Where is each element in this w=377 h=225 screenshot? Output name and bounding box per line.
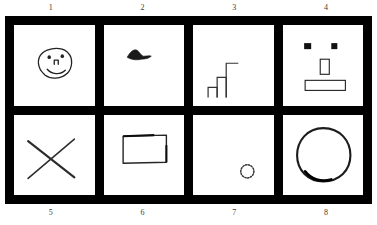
square-eye-left: [304, 43, 311, 49]
smiley-face-icon: [14, 25, 95, 106]
bar-1: [208, 87, 217, 97]
panel-number-2: 2: [97, 1, 189, 14]
rectangle-mouth: [305, 80, 345, 90]
bar-2: [217, 77, 226, 97]
bar-3: [226, 63, 238, 97]
panel-number-7: 7: [189, 206, 281, 219]
eye-left: [48, 55, 51, 59]
rectangle-icon: [104, 115, 185, 196]
bar-chart-icon: [193, 25, 274, 106]
dotted-circle-icon: [193, 115, 274, 196]
large-circle-icon: [283, 115, 364, 196]
panel-number-3: 3: [189, 1, 281, 14]
top-number-row: 1 2 3 4: [5, 1, 372, 14]
panel-number-8: 8: [280, 206, 372, 219]
panel-1-smiley-face[interactable]: [14, 25, 95, 106]
panel-2-small-bird[interactable]: [104, 25, 185, 106]
eye-right: [61, 54, 64, 58]
blocky-face-icon: [283, 25, 364, 106]
panel-number-5: 5: [5, 206, 97, 219]
square-eye-right: [331, 43, 337, 49]
panel-4-blocky-face[interactable]: [283, 25, 364, 106]
sketch-grid-page: 1 2 3 4: [0, 0, 377, 225]
bottom-number-row: 5 6 7 8: [5, 206, 372, 219]
panel-6-rectangle[interactable]: [104, 115, 185, 196]
panel-number-1: 1: [5, 1, 97, 14]
panel-8-large-circle[interactable]: [283, 115, 364, 196]
bird-icon: [104, 25, 185, 106]
panel-7-dotted-circle[interactable]: [193, 115, 274, 196]
panel-5-x-cross[interactable]: [14, 115, 95, 196]
x-cross-icon: [14, 115, 95, 196]
panel-grid-frame: [5, 16, 372, 204]
rectangle-nose: [320, 59, 329, 74]
panel-number-6: 6: [97, 206, 189, 219]
panel-number-4: 4: [280, 1, 372, 14]
panel-3-ascending-bars[interactable]: [193, 25, 274, 106]
